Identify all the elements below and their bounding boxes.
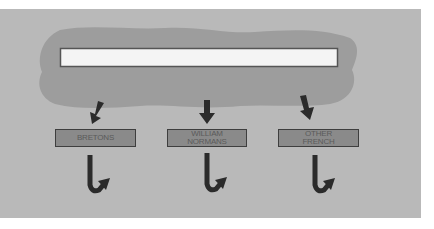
hook-arrow-icon: [90, 155, 104, 191]
hook-arrow-icon: [315, 155, 329, 191]
group-label-text: OTHER FRENCH: [302, 130, 334, 146]
cloud-shape: [39, 27, 357, 108]
source-box: [61, 49, 338, 67]
diagram-graphics: [0, 0, 434, 229]
group-label-bretons: BRETONS: [55, 129, 136, 147]
group-label-william-normans: WILLIAM NORMANS: [167, 129, 247, 147]
group-label-text: BRETONS: [77, 134, 114, 142]
group-label-text: WILLIAM NORMANS: [187, 130, 227, 146]
group-label-other-french: OTHER FRENCH: [278, 129, 359, 147]
